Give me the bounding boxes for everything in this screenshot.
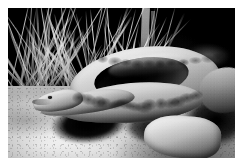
- photograph: [8, 8, 235, 158]
- photo-frame: Black and white photograph of a rattlesn…: [0, 0, 243, 167]
- snake-snout-shadow: [32, 99, 52, 105]
